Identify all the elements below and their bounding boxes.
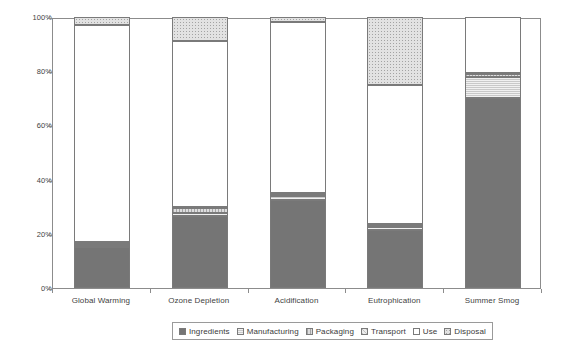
x-axis-label: Summer Smog bbox=[443, 296, 541, 305]
bar-acidification bbox=[270, 17, 326, 288]
x-axis-tick-mark bbox=[345, 289, 346, 293]
bar-segment-use bbox=[367, 85, 423, 225]
x-axis-label: Acidification bbox=[248, 296, 346, 305]
bar-summer-smog bbox=[465, 17, 521, 288]
bar-segment-use bbox=[270, 22, 326, 193]
bar-segment-ingredients bbox=[367, 230, 423, 288]
x-axis-label: Ozone Depletion bbox=[150, 296, 248, 305]
bar-segment-use bbox=[172, 41, 228, 206]
bar-global-warming bbox=[74, 17, 130, 288]
bar-segment-ingredients bbox=[270, 200, 326, 288]
bar-ozone-depletion bbox=[172, 17, 228, 288]
legend-label: Use bbox=[423, 327, 438, 336]
bar-segment-manufacturing bbox=[74, 245, 130, 248]
bar-segment-ingredients bbox=[172, 216, 228, 288]
legend-item-manufacturing[interactable]: Manufacturing bbox=[237, 327, 299, 336]
legend-label: Transport bbox=[371, 327, 406, 336]
bar-segment-disposal bbox=[270, 17, 326, 22]
x-axis-tick-mark bbox=[443, 289, 444, 293]
x-axis-tick-mark bbox=[248, 289, 249, 293]
bar-segment-disposal bbox=[367, 17, 423, 85]
legend-item-use[interactable]: Use bbox=[413, 327, 438, 336]
chart-legend: IngredientsManufacturingPackagingTranspo… bbox=[172, 322, 493, 340]
bar-segment-manufacturing bbox=[270, 196, 326, 200]
legend-swatch-disposal-icon bbox=[444, 328, 451, 335]
x-axis-tick-mark bbox=[541, 289, 542, 293]
bar-segment-ingredients bbox=[74, 247, 130, 288]
bar-segment-packaging bbox=[172, 208, 228, 213]
bar-segment-packaging bbox=[465, 74, 521, 77]
bar-segment-manufacturing bbox=[172, 213, 228, 216]
y-axis: 0%20%40%60%80%100% bbox=[0, 0, 52, 307]
x-axis-label: Eutrophication bbox=[345, 296, 443, 305]
legend-item-ingredients[interactable]: Ingredients bbox=[179, 327, 230, 336]
legend-label: Disposal bbox=[454, 327, 485, 336]
bar-segment-manufacturing bbox=[465, 77, 521, 99]
legend-swatch-manufacturing-icon bbox=[237, 328, 244, 335]
legend-item-packaging[interactable]: Packaging bbox=[306, 327, 354, 336]
bar-segment-disposal bbox=[74, 17, 130, 25]
legend-item-disposal[interactable]: Disposal bbox=[444, 327, 485, 336]
legend-swatch-use-icon bbox=[413, 328, 420, 335]
bar-segment-ingredients bbox=[465, 98, 521, 288]
bar-segment-use bbox=[74, 25, 130, 242]
legend-item-transport[interactable]: Transport bbox=[361, 327, 406, 336]
legend-swatch-packaging-icon bbox=[306, 328, 313, 335]
x-axis-tick-mark bbox=[52, 289, 53, 293]
bar-segment-manufacturing bbox=[367, 227, 423, 230]
legend-label: Manufacturing bbox=[247, 327, 299, 336]
bar-segment-disposal bbox=[172, 17, 228, 41]
plot-area bbox=[52, 18, 541, 289]
bar-eutrophication bbox=[367, 17, 423, 288]
x-axis-tick-mark bbox=[150, 289, 151, 293]
legend-label: Ingredients bbox=[189, 327, 230, 336]
x-axis-label: Global Warming bbox=[52, 296, 150, 305]
bar-segment-use bbox=[465, 17, 521, 73]
legend-swatch-transport-icon bbox=[361, 328, 368, 335]
legend-swatch-ingredients-icon bbox=[179, 328, 186, 335]
stacked-bar-chart: 0%20%40%60%80%100% IngredientsManufactur… bbox=[0, 0, 569, 355]
legend-label: Packaging bbox=[316, 327, 354, 336]
